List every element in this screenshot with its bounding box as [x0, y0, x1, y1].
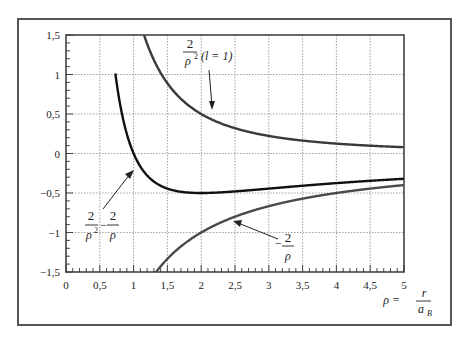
svg-text:ρ: ρ [184, 54, 191, 68]
curve-line [156, 185, 403, 272]
svg-text:2: 2 [94, 226, 98, 235]
arrow-head-icon [209, 101, 215, 110]
svg-text:r: r [422, 286, 427, 300]
arrow-line [238, 223, 278, 239]
svg-text:B: B [427, 309, 432, 318]
x-tick-label: 1,5 [161, 279, 175, 291]
chart: 00,511,522,533,544,55 1,510,50−0,5−1−1,5… [0, 0, 470, 343]
svg-text:ρ =: ρ = [382, 293, 400, 307]
y-tick-label: 1,5 [46, 29, 60, 41]
annotation-coulomb: − 2 ρ [233, 220, 294, 263]
x-tick-label: 0,5 [93, 279, 107, 291]
y-tick-labels: 1,510,50−0,5−1−1,5 [40, 29, 60, 278]
x-tick-label: 5 [401, 279, 407, 291]
x-axis-label: ρ = r a B [382, 286, 432, 318]
svg-text:2: 2 [187, 36, 194, 51]
grid-lines [66, 35, 404, 272]
annotation-centrifugal: 2 ρ 2 (l = 1) [183, 36, 232, 110]
y-tick-label: 0,5 [46, 108, 60, 120]
svg-text:2: 2 [88, 208, 95, 223]
x-tick-label: 2,5 [228, 279, 242, 291]
y-tick-label: −0,5 [40, 187, 60, 199]
svg-text:ρ: ρ [284, 249, 291, 263]
svg-text:−: − [100, 218, 107, 232]
arrow-line [209, 70, 212, 106]
svg-text:−: − [275, 236, 282, 250]
arrow-line [103, 174, 130, 209]
arrow-head-icon [233, 220, 242, 227]
svg-text:2: 2 [285, 230, 292, 245]
y-tick-label: 0 [55, 148, 61, 160]
x-tick-label: 4 [334, 279, 340, 291]
svg-text:ρ: ρ [85, 228, 92, 242]
svg-text:2: 2 [194, 52, 198, 61]
x-tick-labels: 00,511,522,533,544,55 [63, 279, 407, 291]
y-tick-label: 1 [55, 69, 61, 81]
annotation-effective-potential: 2 ρ 2 − 2 ρ [85, 170, 134, 242]
x-tick-label: 0 [63, 279, 69, 291]
y-tick-label: −1 [48, 227, 60, 239]
x-tick-label: 3,5 [296, 279, 310, 291]
x-tick-label: 4,5 [363, 279, 377, 291]
x-tick-label: 1 [131, 279, 137, 291]
x-tick-label: 2 [198, 279, 204, 291]
arrow-head-icon [125, 170, 134, 179]
x-tick-label: 3 [266, 279, 272, 291]
svg-text:2: 2 [110, 208, 117, 223]
svg-text:ρ: ρ [109, 228, 116, 242]
y-tick-label: −1,5 [40, 266, 60, 278]
svg-text:a: a [418, 302, 424, 316]
svg-text:(l = 1): (l = 1) [201, 49, 232, 63]
